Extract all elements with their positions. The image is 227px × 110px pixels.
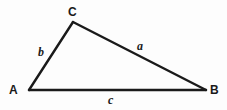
vertex-label-c: C — [68, 6, 77, 18]
triangle-side-b — [29, 22, 73, 90]
vertex-label-a: A — [9, 84, 18, 96]
side-label-b: b — [38, 46, 44, 58]
vertex-label-b: B — [210, 84, 219, 96]
triangle-diagram: A B C a b c — [0, 0, 227, 110]
triangle-side-a — [73, 22, 206, 90]
side-label-a: a — [137, 40, 143, 52]
triangle-figure — [0, 0, 227, 110]
side-label-c: c — [108, 94, 113, 106]
